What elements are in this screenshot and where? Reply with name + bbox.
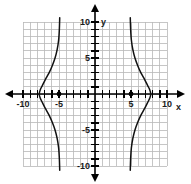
x-tick-label: 5 xyxy=(128,99,133,109)
x-tick-label: -5 xyxy=(55,99,63,109)
point-marker-vertex-right xyxy=(129,92,134,97)
y-tick-label: 10 xyxy=(80,17,90,27)
graph-figure: -10-5510 105-5-10 x y xyxy=(0,0,191,184)
y-axis-label: y xyxy=(101,17,106,27)
x-tick-label: 10 xyxy=(162,99,172,109)
x-tick-label: -10 xyxy=(16,99,29,109)
point-marker-vertex-left xyxy=(57,92,62,97)
y-tick-label: -10 xyxy=(77,161,90,171)
y-tick-label: -5 xyxy=(82,125,90,135)
y-tick-label: 5 xyxy=(85,53,90,63)
x-axis-label: x xyxy=(176,102,181,112)
